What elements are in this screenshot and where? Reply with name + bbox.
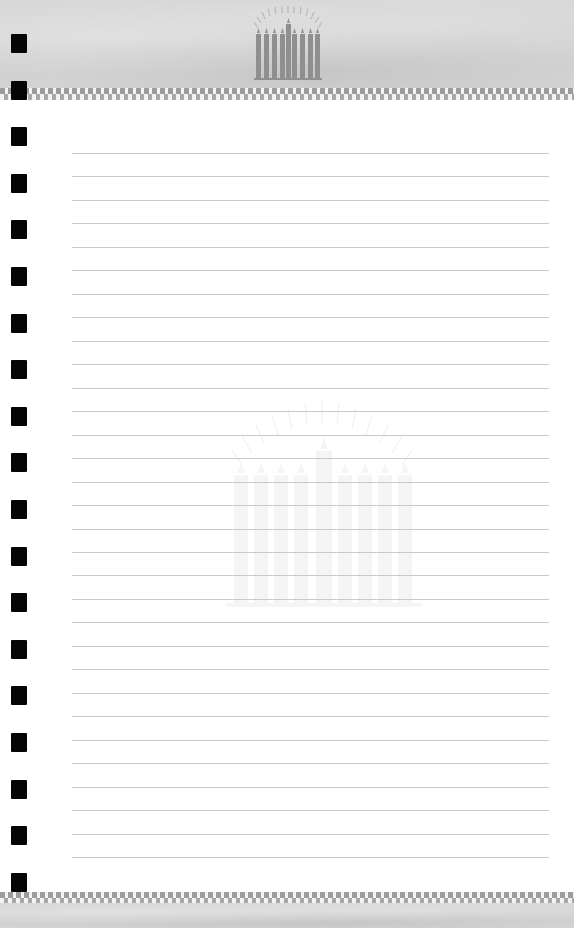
ruled-line xyxy=(72,529,549,530)
punch-hole xyxy=(11,780,27,799)
punch-hole xyxy=(11,547,27,566)
ruled-line xyxy=(72,787,549,788)
ruled-line xyxy=(72,552,549,553)
ruled-line xyxy=(72,458,549,459)
punch-hole xyxy=(11,640,27,659)
ruled-line xyxy=(72,810,549,811)
ruled-line xyxy=(72,716,549,717)
ruled-line xyxy=(72,388,549,389)
footer-band xyxy=(0,903,574,928)
ruled-line xyxy=(72,740,549,741)
ruled-line xyxy=(72,622,549,623)
ruled-line xyxy=(72,575,549,576)
ruled-line xyxy=(72,599,549,600)
ruled-line xyxy=(72,857,549,858)
ruled-line xyxy=(72,200,549,201)
ruled-line xyxy=(72,153,549,154)
ruled-line xyxy=(72,364,549,365)
menorah-icon xyxy=(252,6,324,82)
punch-hole xyxy=(11,127,27,146)
punch-hole xyxy=(11,593,27,612)
punch-hole xyxy=(11,34,27,53)
notepad-page xyxy=(0,0,574,928)
ruled-line xyxy=(72,247,549,248)
ruled-line xyxy=(72,763,549,764)
ruled-line xyxy=(72,317,549,318)
punch-hole xyxy=(11,360,27,379)
punch-hole xyxy=(11,407,27,426)
top-checker-border xyxy=(0,88,574,100)
punch-hole xyxy=(11,453,27,472)
header-band xyxy=(0,0,574,90)
ruled-line xyxy=(72,294,549,295)
punch-hole xyxy=(11,686,27,705)
ruled-line xyxy=(72,411,549,412)
ruled-line xyxy=(72,341,549,342)
ruled-line xyxy=(72,646,549,647)
ruled-line xyxy=(72,482,549,483)
ruled-line xyxy=(72,693,549,694)
ruled-line xyxy=(72,669,549,670)
punch-hole xyxy=(11,733,27,752)
punch-hole xyxy=(11,174,27,193)
punch-hole xyxy=(11,826,27,845)
ruled-line xyxy=(72,223,549,224)
punch-hole xyxy=(11,220,27,239)
punch-hole xyxy=(11,267,27,286)
ruled-line xyxy=(72,176,549,177)
ruled-line xyxy=(72,435,549,436)
ruled-line xyxy=(72,270,549,271)
punch-hole xyxy=(11,314,27,333)
ruled-line xyxy=(72,834,549,835)
punch-hole xyxy=(11,81,27,100)
ruled-line xyxy=(72,505,549,506)
punch-hole xyxy=(11,500,27,519)
punch-hole xyxy=(11,873,27,892)
